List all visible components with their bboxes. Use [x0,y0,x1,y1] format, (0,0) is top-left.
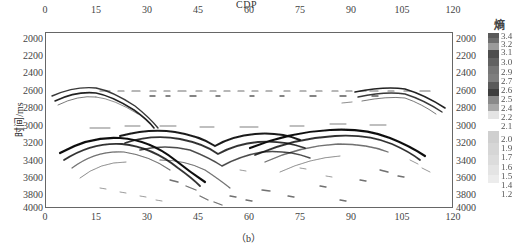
colorbar-swatch [488,50,499,58]
colorbar-label: 3.1 [501,48,512,57]
colorbar-label: 1.7 [501,153,512,162]
colorbar-swatch [488,82,499,89]
colorbar-swatch [488,175,499,183]
plot-frame [45,32,453,208]
figure-caption: （b） [236,230,261,245]
colorbar-swatch [488,74,499,82]
colorbar-swatch [488,43,499,50]
colorbar-swatch [488,165,499,175]
colorbar-swatch [488,58,499,66]
colorbar-swatch [488,96,499,104]
colorbar-swatch [488,66,499,74]
colorbar-swatch [488,131,499,143]
colorbar-label: 3.0 [501,58,512,67]
colorbar-swatch [488,111,499,119]
colorbar-swatch [488,155,499,165]
colorbar-label: 2.1 [501,122,512,131]
colorbar-swatch [488,89,499,96]
colorbar-swatch [488,143,499,155]
colorbar-title: 熵 [494,16,505,32]
colorbar-swatch [488,104,499,111]
colorbar-swatch [488,119,499,131]
colorbar-label: 1.2 [501,190,512,199]
